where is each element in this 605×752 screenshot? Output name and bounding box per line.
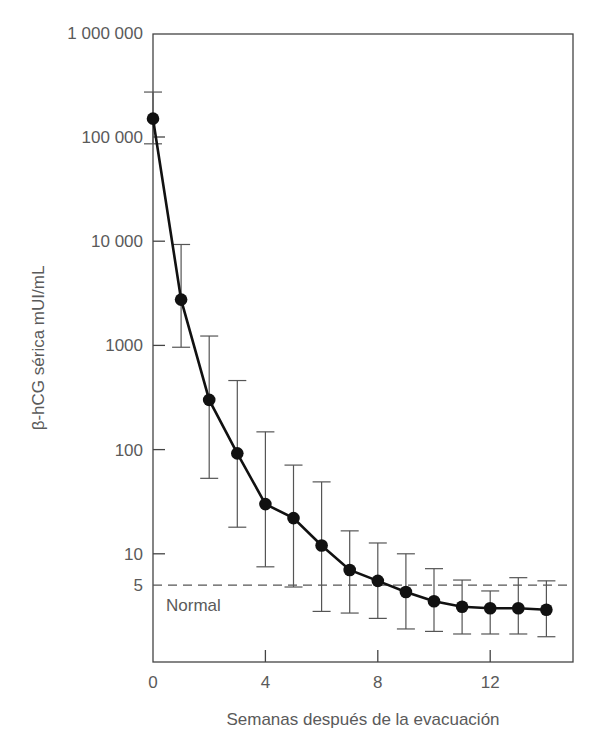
y-tick-label: 10 xyxy=(124,545,143,564)
y-tick-label: 100 000 xyxy=(82,128,143,147)
data-point xyxy=(203,394,216,407)
y-tick-label: 1000 xyxy=(105,336,143,355)
x-axis: 04812 xyxy=(148,650,499,692)
error-bar xyxy=(200,336,218,478)
normal-reference-line: Normal xyxy=(153,585,573,615)
data-point xyxy=(259,498,272,511)
normal-label: Normal xyxy=(166,596,221,615)
data-point xyxy=(147,112,160,125)
data-point xyxy=(372,575,385,588)
y-tick-label: 5 xyxy=(134,576,143,595)
y-tick-label: 1 000 000 xyxy=(67,24,143,43)
data-point xyxy=(343,564,356,577)
data-point xyxy=(428,595,441,608)
data-point xyxy=(456,601,469,614)
y-axis-title: β-hCG sérica mUI/mL xyxy=(29,266,48,431)
data-point xyxy=(231,447,244,460)
plot-frame xyxy=(153,34,573,662)
y-tick-label: 100 xyxy=(115,441,143,460)
x-tick-label: 12 xyxy=(481,673,500,692)
x-tick-label: 4 xyxy=(261,673,270,692)
y-axis: 1 000 000100 00010 0001000100105 xyxy=(67,24,165,595)
hcg-regression-chart: 1 000 000100 00010 0001000100105 04812 N… xyxy=(0,0,605,752)
data-point xyxy=(512,602,525,615)
data-point xyxy=(315,539,328,552)
data-point xyxy=(484,602,497,615)
x-tick-label: 0 xyxy=(148,673,157,692)
error-bars xyxy=(144,92,555,637)
x-axis-title: Semanas después de la evacuación xyxy=(226,710,499,729)
data-point xyxy=(540,604,553,617)
data-point xyxy=(287,512,300,525)
y-tick-label: 10 000 xyxy=(91,232,143,251)
data-point xyxy=(400,586,413,599)
data-point xyxy=(175,293,188,306)
x-tick-label: 8 xyxy=(373,673,382,692)
